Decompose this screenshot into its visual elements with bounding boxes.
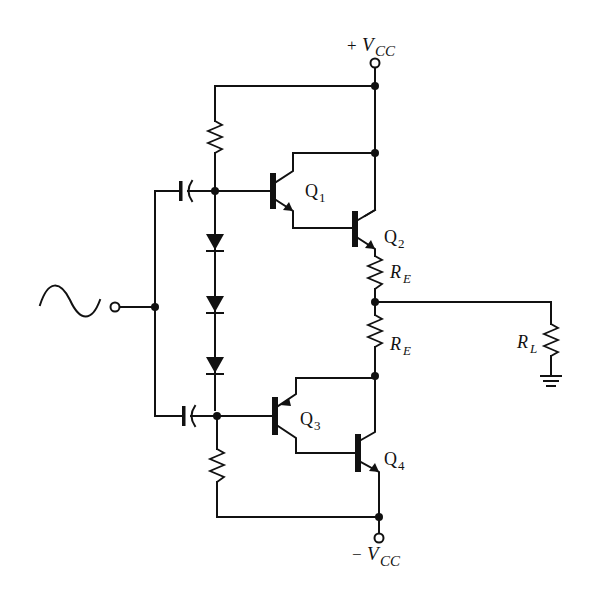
diode-1-icon [206,234,224,251]
vcc-positive-label: + V CC [347,34,396,59]
q2-label: Q 2 [384,227,405,251]
svg-text:R: R [389,334,401,354]
svg-text:E: E [402,343,411,358]
rl-label: R L [516,332,537,356]
input-terminal[interactable] [111,303,120,312]
vcc-positive-v: V [362,34,376,55]
q3-label: Q 3 [300,409,321,433]
ac-source-sine-icon [40,286,100,317]
q2-base-bar [352,211,358,247]
lower-cap-plate-flat [182,406,186,426]
svg-text:1: 1 [319,190,326,205]
svg-text:Q: Q [384,227,397,247]
svg-text:CC: CC [380,553,401,569]
q1-collector-wire [276,153,375,182]
q3-emitter-wire [278,378,375,406]
svg-text:Q: Q [305,181,318,201]
re-bottom-resistor [368,315,382,347]
q1-label: Q 1 [305,181,326,205]
bottom-rail-wire [217,482,379,517]
q4-collector-wire [361,376,375,440]
svg-text:Q: Q [300,409,313,429]
vcc-negative-terminal[interactable] [375,534,384,543]
upper-cap-plate-flat [179,181,183,201]
top-rail-wire [215,68,375,86]
q4-label: Q 4 [384,449,405,473]
re-top-resistor [368,256,382,289]
circuit-diagram: + V CC Q 1 Q 2 R E [0,0,592,592]
vcc-positive-sub: CC [375,43,396,59]
q4-base-bar [355,434,361,472]
bias-bottom-resistor [210,449,224,482]
svg-text:2: 2 [398,236,405,251]
rl-resistor [544,324,558,356]
q2-collector-lead [358,210,375,220]
vcc-positive-sign: + [347,36,357,55]
vcc-negative-label: − V CC [352,543,401,569]
q3-base-bar [272,397,278,435]
svg-text:R: R [516,332,528,352]
q1-base-bar [270,173,276,209]
re-bottom-label: R E [389,334,411,358]
bias-top-resistor [208,121,222,153]
vcc-positive-terminal[interactable] [371,59,380,68]
svg-text:L: L [529,341,537,356]
svg-text:Q: Q [384,449,397,469]
svg-text:3: 3 [314,418,321,433]
svg-text:4: 4 [398,458,405,473]
ground-icon [541,376,561,386]
svg-text:V: V [367,543,381,564]
re-top-label: R E [389,262,411,286]
svg-text:R: R [389,262,401,282]
svg-text:−: − [352,545,362,564]
svg-text:E: E [402,271,411,286]
diode-3-icon [206,357,224,374]
output-wire [375,302,551,324]
diode-2-icon [206,296,224,313]
